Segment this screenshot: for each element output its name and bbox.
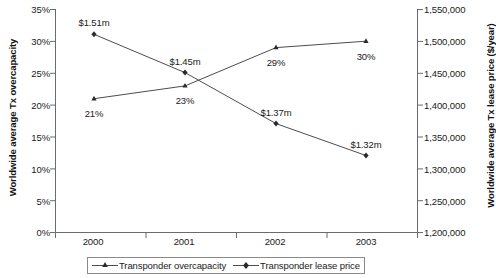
data-label-lease-price-2003: $1.32m — [331, 139, 401, 150]
series-transponder-lease-price — [91, 31, 368, 158]
series-marker-diamond — [363, 153, 368, 159]
series-transponder-overcapacity — [91, 38, 368, 100]
data-label-overcapacity-2002: 29% — [246, 57, 306, 68]
data-label-overcapacity-2001: 23% — [155, 95, 215, 106]
legend-entry-lease-price: Transponder lease price — [233, 258, 360, 273]
y-axis-left-ticks — [50, 10, 56, 233]
x-axis-ticks — [56, 233, 418, 239]
data-label-lease-price-2001: $1.45m — [150, 56, 220, 67]
legend-label-overcapacity: Transponder overcapacity — [119, 260, 226, 271]
data-label-lease-price-2000: $1.51m — [59, 17, 129, 28]
series-line-lease-price — [94, 34, 366, 155]
legend-entry-overcapacity: Transponder overcapacity — [92, 258, 226, 273]
legend-label-lease-price: Transponder lease price — [260, 260, 360, 271]
series-line-overcapacity — [94, 41, 366, 98]
series-marker-diamond — [91, 31, 96, 37]
data-label-overcapacity-2003: 30% — [336, 51, 396, 62]
y-axis-right-ticks — [418, 10, 424, 233]
data-label-lease-price-2002: $1.37m — [241, 107, 311, 118]
data-label-overcapacity-2000: 21% — [64, 108, 124, 119]
chart-legend: Transponder overcapacity Transponder lea… — [87, 257, 365, 274]
series-marker-triangle — [273, 45, 278, 50]
legend-triangle-marker-icon — [92, 260, 118, 271]
series-marker-triangle — [363, 38, 368, 43]
series-marker-diamond — [182, 70, 187, 76]
legend-diamond-marker-icon — [233, 260, 259, 271]
series-marker-diamond — [273, 121, 278, 127]
